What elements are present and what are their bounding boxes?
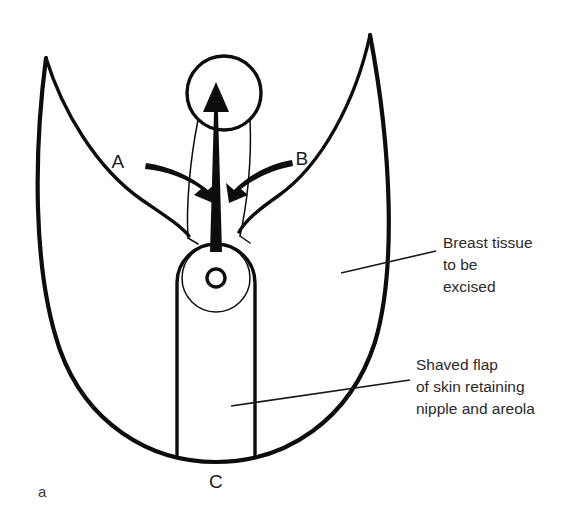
panel-label: a <box>38 483 47 500</box>
marker-label-a: A <box>112 151 125 172</box>
annotation-shaved-flap-line3: nipple and areola <box>416 400 535 417</box>
marker-label-c: C <box>209 471 223 492</box>
annotation-breast-tissue-line1: Breast tissue <box>443 234 533 251</box>
nipple-transposition-arrow <box>203 82 229 252</box>
nipple-circle <box>207 269 225 287</box>
leader-line-shaved-flap <box>231 380 410 406</box>
notch-shoulder-left <box>188 238 198 244</box>
advancement-arrow-a <box>145 163 216 203</box>
notch-shoulder-right <box>240 236 250 243</box>
areola-circle <box>182 244 250 312</box>
vertical-dermal-flap <box>177 244 255 455</box>
annotation-shaved-flap-line2: of skin retaining <box>416 378 525 395</box>
figure-container: A B C Breast tissue to be excised Shaved… <box>0 0 565 519</box>
annotation-shaved-flap-line1: Shaved flap <box>416 356 498 373</box>
annotation-breast-tissue-line2: to be <box>443 256 477 273</box>
marker-label-b: B <box>296 148 309 169</box>
advancement-arrow-b <box>226 160 293 203</box>
annotation-breast-tissue-line3: excised <box>443 278 496 295</box>
right-wing-inner-curve <box>239 35 370 232</box>
new-nipple-position-circle <box>187 56 261 130</box>
left-wing-inner-curve <box>46 58 189 236</box>
breast-reduction-diagram: A B C Breast tissue to be excised Shaved… <box>0 0 565 519</box>
